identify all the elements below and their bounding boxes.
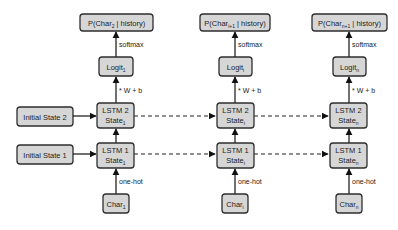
- output-label-1: P(Char2 | history): [88, 19, 146, 29]
- initial-state-1-label: Initial State 1: [23, 151, 66, 160]
- initial-state-1-node: Initial State 1: [17, 145, 73, 164]
- lstm2-node-n: LSTM 2 Staten: [330, 103, 367, 128]
- logit-node-n: Logitn: [333, 57, 366, 76]
- lstm2-state-1: State1: [105, 116, 126, 126]
- logit-label-i: Logiti: [227, 63, 244, 73]
- lstm1-state-1: State1: [105, 156, 126, 166]
- lstm2-title-i: LSTM 2: [222, 106, 248, 115]
- output-label-i: P(Chari+1 | history): [204, 19, 266, 29]
- input-char-node-i: Chari: [222, 194, 248, 213]
- output-label-n: P(Charn+1 | history): [318, 19, 381, 29]
- initial-state-2-node: Initial State 2: [17, 107, 73, 126]
- softmax-label-n: softmax: [352, 41, 377, 48]
- lstm2-node-1: LSTM 2 State1: [97, 103, 134, 128]
- logit-node-i: Logiti: [219, 57, 252, 76]
- lstm1-node-i: LSTM 1 Statei: [217, 143, 254, 168]
- affine-label-i: * W + b: [238, 87, 261, 94]
- column-n: P(Charn+1 | history) softmax Logitn * W …: [312, 14, 387, 213]
- input-char-label-i: Chari: [226, 200, 243, 210]
- one-hot-label-i: one-hot: [238, 178, 262, 185]
- lstm2-title-1: LSTM 2: [102, 106, 128, 115]
- input-char-node-1: Char1: [103, 194, 129, 213]
- lstm1-state-n: Staten: [338, 156, 359, 166]
- lstm2-state-i: Statei: [226, 116, 245, 126]
- lstm1-node-n: LSTM 1 Staten: [330, 143, 367, 168]
- lstm1-title-i: LSTM 1: [222, 146, 248, 155]
- softmax-label-1: softmax: [119, 41, 144, 48]
- output-node-i: P(Chari+1 | history): [200, 14, 270, 31]
- softmax-label-i: softmax: [238, 41, 263, 48]
- lstm1-state-i: Statei: [226, 156, 245, 166]
- column-1: P(Char2 | history) softmax Logit1 * W + …: [80, 14, 153, 213]
- column-i: P(Chari+1 | history) softmax Logiti * W …: [200, 14, 270, 213]
- output-node-1: P(Char2 | history): [80, 14, 153, 31]
- lstm2-state-n: Staten: [338, 116, 359, 126]
- lstm1-title-1: LSTM 1: [102, 146, 128, 155]
- lstm2-title-n: LSTM 2: [335, 106, 361, 115]
- lstm1-title-n: LSTM 1: [335, 146, 361, 155]
- one-hot-label-n: one-hot: [352, 178, 376, 185]
- lstm1-node-1: LSTM 1 State1: [97, 143, 134, 168]
- affine-label-1: * W + b: [119, 87, 142, 94]
- one-hot-label-1: one-hot: [119, 178, 143, 185]
- affine-label-n: * W + b: [352, 87, 375, 94]
- output-node-n: P(Charn+1 | history): [312, 14, 387, 31]
- lstm2-node-i: LSTM 2 Statei: [217, 103, 254, 128]
- input-char-node-n: Charn: [336, 194, 362, 213]
- initial-state-2-label: Initial State 2: [23, 113, 66, 122]
- logit-node-1: Logit1: [99, 57, 133, 76]
- lstm-diagram: Initial State 2 Initial State 1 P(Char2 …: [0, 0, 398, 230]
